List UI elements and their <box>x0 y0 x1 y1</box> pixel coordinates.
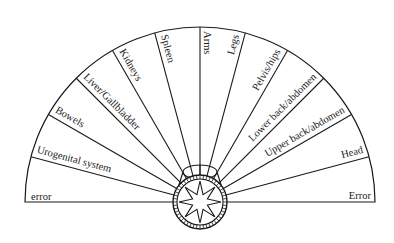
sector-label-error: Error <box>349 190 372 201</box>
pendulum-chart: errorUrogenital systemBowelsLiver/Gallbl… <box>0 0 394 243</box>
star-icon <box>179 181 221 223</box>
sector-label-arms: Arms <box>202 31 213 54</box>
sector-label-error: error <box>31 191 52 202</box>
